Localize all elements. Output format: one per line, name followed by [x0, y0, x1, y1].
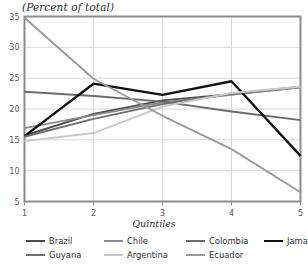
legend-row-1: BrazilChileColombiaJamaica [0, 234, 308, 248]
y-axis-tick-labels: 5101520253035 [9, 13, 19, 207]
legend-label-guyana: Guyana [49, 251, 81, 260]
x-tick-label: 4 [229, 209, 234, 218]
y-tick-label: 30 [9, 43, 19, 52]
y-tick-label: 10 [9, 167, 19, 176]
y-tick-label: 35 [9, 13, 19, 22]
legend-swatch-chile [104, 240, 123, 242]
legend-swatch-argentina [104, 254, 123, 256]
chart-legend: BrazilChileColombiaJamaica GuyanaArgenti… [0, 234, 308, 262]
legend-row-2: GuyanaArgentinaEcuador [0, 248, 308, 262]
legend-swatch-guyana [26, 254, 45, 256]
x-tick-label: 2 [91, 209, 96, 218]
legend-label-colombia: Colombia [209, 237, 248, 246]
legend-label-jamaica: Jamaica [287, 237, 308, 246]
legend-item-colombia[interactable]: Colombia [186, 237, 248, 246]
legend-item-brazil[interactable]: Brazil [26, 237, 72, 246]
y-tick-label: 15 [9, 136, 19, 145]
y-tick-label: 20 [9, 105, 19, 114]
legend-label-argentina: Argentina [127, 251, 168, 260]
x-tick-label: 3 [160, 209, 165, 218]
legend-item-jamaica[interactable]: Jamaica [264, 237, 308, 246]
legend-label-chile: Chile [127, 237, 148, 246]
x-axis-label: Quintiles [0, 218, 308, 229]
y-tick-label: 5 [14, 198, 19, 207]
legend-item-ecuador[interactable]: Ecuador [186, 251, 243, 260]
legend-swatch-colombia [186, 240, 205, 242]
x-tick-label: 1 [22, 209, 27, 218]
legend-item-chile[interactable]: Chile [104, 237, 148, 246]
legend-swatch-jamaica [264, 240, 283, 242]
y-tick-label: 25 [9, 74, 19, 83]
legend-swatch-brazil [26, 240, 45, 242]
legend-label-ecuador: Ecuador [209, 251, 243, 260]
legend-label-brazil: Brazil [49, 237, 72, 246]
x-axis-tick-labels: 12345 [22, 209, 303, 218]
chart-figure: (Percent of total) 5101520253035 12345 Q… [0, 0, 308, 268]
legend-item-guyana[interactable]: Guyana [26, 251, 81, 260]
legend-item-argentina[interactable]: Argentina [104, 251, 168, 260]
x-tick-label: 5 [298, 209, 303, 218]
legend-swatch-ecuador [186, 254, 205, 256]
